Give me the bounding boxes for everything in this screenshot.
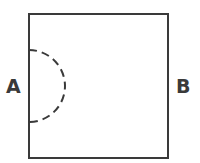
- square-outline: [29, 14, 168, 158]
- label-b: B: [176, 77, 190, 96]
- dashed-semicircle: [29, 50, 65, 122]
- diagram-figure: [0, 0, 200, 163]
- label-a: A: [6, 77, 21, 96]
- diagram-canvas: A B: [0, 0, 200, 163]
